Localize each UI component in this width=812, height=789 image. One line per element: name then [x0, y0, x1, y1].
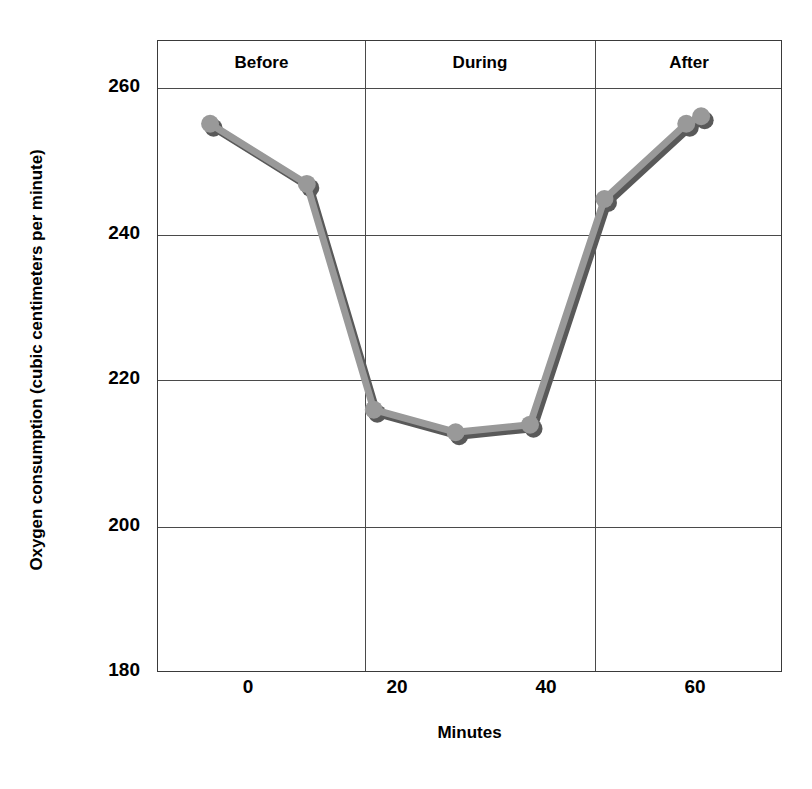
data-series-oxygen-consumption [158, 41, 783, 673]
plot-area: Before During After [157, 40, 782, 672]
x-tick-label-0: 0 [218, 676, 278, 698]
y-tick-label-200: 200 [0, 514, 140, 536]
y-tick-label-240: 240 [0, 222, 140, 244]
chart-figure: Oxygen consumption (cubic centimeters pe… [0, 0, 812, 789]
data-point [595, 190, 613, 208]
x-tick-label-40: 40 [516, 676, 576, 698]
data-point [201, 115, 219, 133]
data-point [692, 107, 710, 125]
data-point [365, 401, 383, 419]
x-axis-title: Minutes [157, 723, 782, 743]
y-tick-label-180: 180 [0, 659, 140, 681]
x-tick-label-60: 60 [665, 676, 725, 698]
y-tick-label-220: 220 [0, 367, 140, 389]
data-point [521, 416, 539, 434]
y-tick-label-260: 260 [0, 75, 140, 97]
data-point [447, 423, 465, 441]
x-tick-label-20: 20 [367, 676, 427, 698]
data-point [298, 175, 316, 193]
y-axis-title: Oxygen consumption (cubic centimeters pe… [27, 40, 47, 680]
